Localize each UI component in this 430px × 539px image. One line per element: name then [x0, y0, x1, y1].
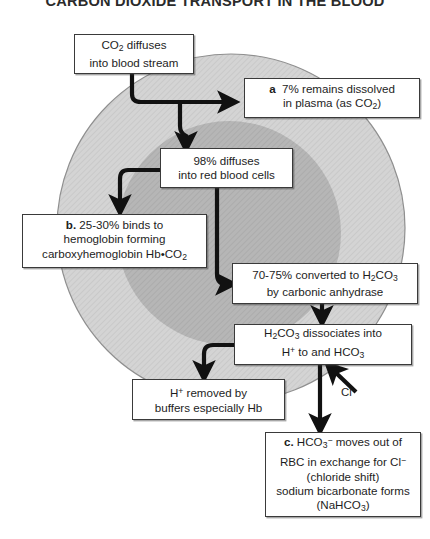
node-co2-line2: into blood stream [90, 56, 179, 70]
node-hplus-line1: H+ removed by [170, 384, 247, 401]
node-bicarbonate-exchange[interactable]: c. HCO3− moves out of RBC in exchange fo… [265, 432, 421, 517]
node-co2-line1: CO2 diffuses [101, 38, 166, 56]
node-co2-diffuses[interactable]: CO2 diffuses into blood stream [74, 34, 194, 74]
node-hplus-line2: buffers especially Hb [155, 401, 262, 415]
node-plasma-line1: a 7% remains dissolved [269, 82, 395, 96]
node-diffuses-98[interactable]: 98% diffuses into red blood cells [160, 148, 293, 188]
node-dissociates[interactable]: H2CO3 dissociates into H+ to and HCO3 [234, 324, 412, 365]
node-98-line1: 98% diffuses [193, 154, 259, 168]
node-hemo-line3: carboxyhemoglobin Hb•CO2 [42, 247, 187, 265]
node-98-line2: into red blood cells [178, 168, 275, 182]
node-hemo-line2: hemoglobin forming [64, 232, 166, 246]
node-hemo-line1: b. 25-30% binds to [66, 218, 163, 232]
node-convert-line1: 70-75% converted to H2CO3 [252, 268, 398, 286]
node-hplus-removed[interactable]: H+ removed by buffers especially Hb [132, 379, 285, 420]
node-converted-h2co3[interactable]: 70-75% converted to H2CO3 by carbonic an… [232, 263, 418, 304]
node-dissoc-line1: H2CO3 dissociates into [264, 326, 382, 344]
node-hemoglobin-binding[interactable]: b. 25-30% binds to hemoglobin forming ca… [22, 214, 207, 268]
node-hco3-line3: (chloride shift) [307, 470, 380, 484]
node-hco3-line4: sodium bicarbonate forms [276, 484, 409, 498]
node-hco3-line1: c. HCO3− moves out of [284, 433, 402, 453]
edge-label-chloride: Cl− [341, 385, 357, 398]
node-hco3-line5: (NaHCO3) [316, 498, 369, 516]
node-convert-line2: by carbonic anhydrase [267, 285, 384, 299]
co2-transport-diagram: CARBON DIOXIDE TRANSPORT IN THE BLOOD [0, 0, 430, 539]
node-dissoc-line2: H+ to and HCO3 [282, 343, 365, 363]
node-plasma-dissolved[interactable]: a 7% remains dissolved in plasma (as CO2… [244, 78, 420, 118]
node-hco3-line2: RBC in exchange for Cl− [280, 453, 406, 470]
node-plasma-line2: in plasma (as CO2) [283, 96, 381, 114]
